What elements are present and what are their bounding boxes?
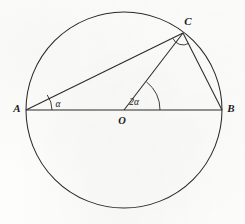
geometry-figure: A B C O α 2α — [0, 0, 245, 224]
figure-canvas: A B C O α 2α — [0, 0, 245, 224]
point-label-b: B — [226, 102, 234, 114]
point-label-c: C — [184, 15, 192, 27]
angle-arc-two-alpha-at-o — [146, 82, 160, 110]
angle-label-two-alpha: 2α — [129, 97, 140, 107]
point-label-a: A — [12, 102, 20, 114]
angle-label-alpha: α — [56, 99, 62, 109]
segment-chord-cb — [183, 33, 222, 110]
point-label-o: O — [118, 115, 126, 126]
